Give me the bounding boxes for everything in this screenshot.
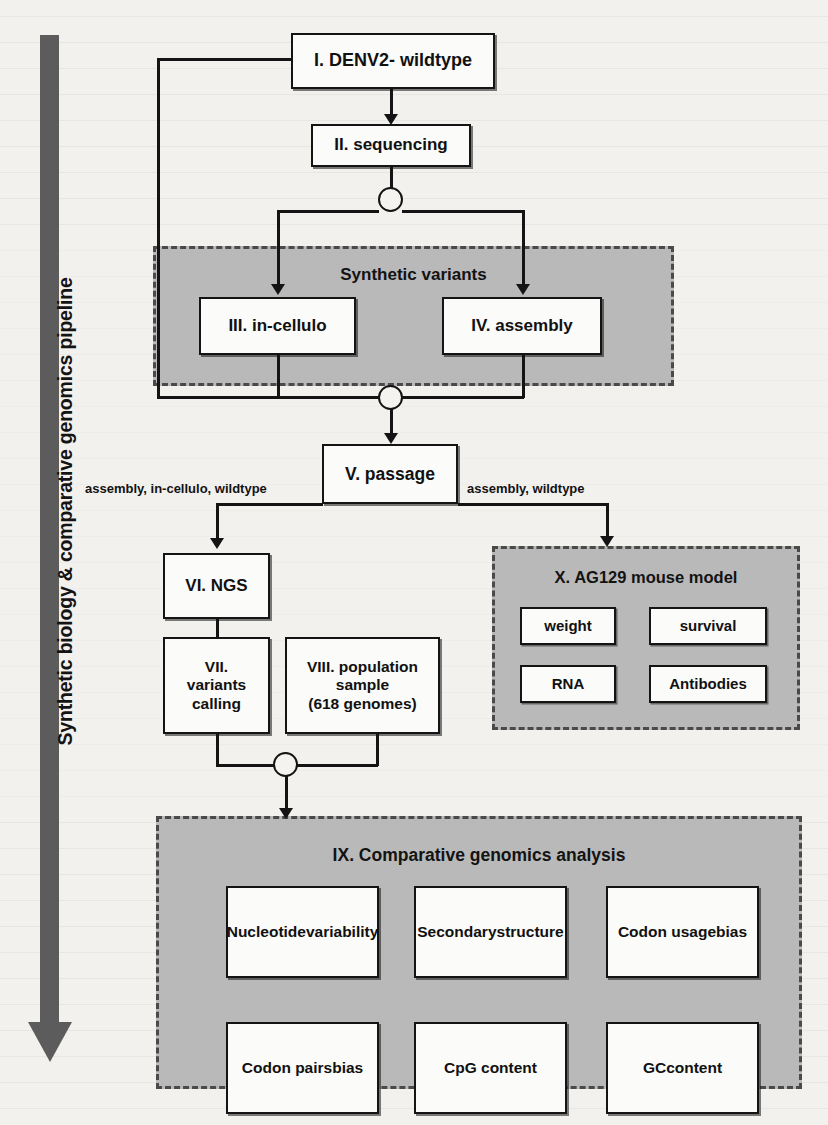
edge-population-to-junction3 (297, 764, 378, 767)
node-cpg-content[interactable]: CpG content (414, 1022, 567, 1114)
node-line-1: GCcontent (643, 1059, 722, 1077)
node-codon-usage-bias[interactable]: Codon usage bias (606, 886, 759, 978)
edge-passage-to-ngs (216, 503, 219, 540)
edge-assembly-down (522, 355, 525, 398)
edge-to-in-cellulo (277, 210, 280, 286)
edge-passage-to-mouse (606, 503, 609, 540)
edge-label-left: assembly, in-cellulo, wildtype (85, 481, 267, 496)
edge-junction1-right-bus (402, 210, 524, 213)
junction-node-2 (378, 385, 403, 410)
node-population-sample[interactable]: VIII. population sample (618 genomes) (285, 637, 440, 734)
edge-wildtype-bypass-vertical (157, 58, 160, 398)
node-antibodies[interactable]: Antibodies (649, 665, 767, 703)
group-synthetic-variants-title: Synthetic variants (156, 265, 671, 285)
node-passage[interactable]: V. passage (322, 444, 458, 504)
edge-population-down (376, 733, 379, 766)
node-denv2-wildtype[interactable]: I. DENV2- wildtype (291, 33, 495, 89)
node-ngs[interactable]: VI. NGS (163, 553, 270, 619)
node-sequencing[interactable]: II. sequencing (311, 124, 471, 167)
node-variants-calling[interactable]: VII. variants calling (163, 637, 270, 734)
edge-passage-left-bus (217, 503, 323, 506)
group-mouse-model-title: X. AG129 mouse model (495, 568, 797, 587)
node-gc-content[interactable]: GCcontent (606, 1022, 759, 1114)
pipeline-flowchart: Synthetic biology & comparative genomics… (0, 0, 828, 1125)
node-nucleotide-variability[interactable]: Nucleotide variability (226, 886, 379, 978)
node-line-2: sample (336, 676, 389, 693)
node-line-2: variants (187, 676, 246, 693)
edge-wildtype-bypass-top (157, 58, 292, 61)
node-survival[interactable]: survival (649, 607, 767, 645)
junction-node-3 (273, 752, 298, 777)
node-line-1: VII. (205, 658, 228, 675)
arrowhead-to-passage (384, 433, 398, 444)
edge-variants-down (216, 733, 219, 766)
node-line-2: variability (306, 923, 378, 941)
edge-assembly-to-junction2 (402, 396, 524, 399)
edge-junction1-left-bus (278, 210, 379, 213)
node-line-1: Nucleotide (227, 923, 306, 941)
arrowhead-to-assembly (516, 284, 530, 295)
node-line-1: Codon pairs (242, 1059, 332, 1077)
edge-label-right: assembly, wildtype (467, 481, 585, 496)
node-assembly[interactable]: IV. assembly (442, 297, 602, 355)
arrowhead-to-mouse (600, 536, 614, 547)
node-in-cellulo[interactable]: III. in-cellulo (199, 297, 356, 355)
node-secondary-structure[interactable]: Secondary structure (414, 886, 567, 978)
node-codon-pairs-bias[interactable]: Codon pairs bias (226, 1022, 379, 1114)
node-line-1: CpG content (444, 1059, 537, 1077)
node-line-1: Codon usage (618, 923, 716, 941)
node-line-2: bias (332, 1059, 363, 1077)
pipeline-axis-label: Synthetic biology & comparative genomics… (54, 212, 77, 812)
node-line-1: Secondary (417, 923, 496, 941)
edge-junction3-to-genomics (285, 776, 288, 810)
edge-i-to-ii (390, 88, 393, 116)
arrowhead-to-ngs (210, 538, 224, 549)
edge-junction2-to-passage (390, 409, 393, 435)
arrowhead-to-in-cellulo (271, 284, 285, 295)
node-line-3: (618 genomes) (308, 695, 417, 712)
junction-node-1 (378, 187, 403, 212)
arrowhead-to-genomics (279, 808, 293, 819)
node-line-3: calling (192, 695, 241, 712)
node-line-2: structure (497, 923, 564, 941)
node-line-2: bias (716, 923, 747, 941)
edge-to-assembly (522, 210, 525, 286)
edge-wildtype-bypass-bottom (157, 396, 379, 399)
node-weight[interactable]: weight (520, 607, 616, 645)
group-comparative-genomics-title: IX. Comparative genomics analysis (159, 845, 799, 866)
node-line-1: VIII. population (307, 658, 418, 675)
edge-ii-to-junction1 (390, 166, 393, 188)
edge-passage-right-bus (458, 503, 608, 506)
node-rna[interactable]: RNA (520, 665, 616, 703)
edge-in-cellulo-to-junction2 (277, 355, 280, 398)
pipeline-direction-arrow-head (28, 1022, 72, 1062)
